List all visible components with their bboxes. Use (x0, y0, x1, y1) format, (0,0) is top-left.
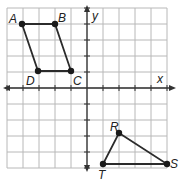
label-b: B (58, 11, 66, 25)
point-a (19, 21, 25, 27)
label-s: S (170, 157, 178, 171)
x-axis-label: x (156, 72, 164, 86)
coordinate-grid: x y A B C D R S T (0, 0, 179, 179)
label-c: C (73, 74, 82, 88)
label-t: T (98, 168, 107, 179)
label-d: D (26, 74, 35, 88)
point-d (35, 68, 41, 74)
point-t (100, 161, 106, 167)
triangle-rst: R S T (98, 120, 178, 179)
label-r: R (110, 120, 119, 134)
x-axis-right-arrow-icon (169, 85, 176, 91)
y-axis-label: y (91, 9, 99, 23)
label-a: A (8, 12, 17, 26)
